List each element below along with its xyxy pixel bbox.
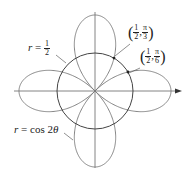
circle-fraction: 1 2 (44, 40, 50, 57)
polar-plot (0, 0, 194, 178)
polar-diagram: r = 1 2 (12,π3) (12,π6) r = cos 2θ (0, 0, 194, 178)
circle-lhs: r (28, 41, 32, 53)
pointer-rose (64, 133, 73, 140)
pointer-pi-3 (115, 44, 130, 56)
circle-equation-label: r = 1 2 (28, 40, 50, 57)
intersection-point-pi-6 (127, 71, 130, 74)
circle-den: 2 (44, 49, 50, 57)
rose-equation-label: r = cos 2θ (14, 124, 58, 135)
p2-r-den: 2 (145, 57, 151, 65)
intersection-point-pi-3 (113, 57, 116, 60)
point-label-pi-6: (12,π6) (140, 48, 165, 65)
rose-var: θ (53, 123, 58, 135)
x-axis-arrow-icon (175, 89, 182, 94)
pointer-circle (56, 55, 66, 63)
p1-r-den: 2 (133, 33, 139, 41)
point-label-pi-3: (12,π3) (128, 24, 153, 41)
rose-rhs: cos 2 (30, 123, 53, 135)
rose-lhs: r (14, 123, 18, 135)
